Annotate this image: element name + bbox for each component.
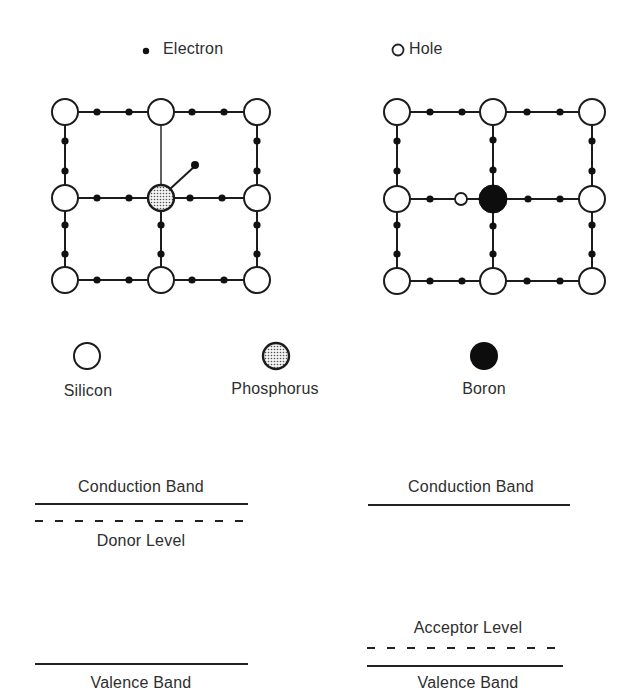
electron-legend-label: Electron xyxy=(163,40,223,58)
extra-electron-icon xyxy=(191,161,199,169)
hole-legend-icon xyxy=(393,45,404,56)
silicon-atom xyxy=(579,99,605,125)
silicon-atom xyxy=(480,99,506,125)
hole-icon xyxy=(455,193,467,205)
phosphorus-legend-icon xyxy=(263,343,289,369)
silicon-atom xyxy=(579,268,605,294)
n-type-lattice xyxy=(52,99,270,293)
silicon-atom xyxy=(244,267,270,293)
boron-legend-icon xyxy=(470,342,498,370)
silicon-atom xyxy=(244,99,270,125)
silicon-atom xyxy=(52,267,78,293)
silicon-atom xyxy=(148,99,174,125)
silicon-atom xyxy=(480,268,506,294)
left-conduction-band-label: Conduction Band xyxy=(78,478,204,496)
silicon-atom xyxy=(384,186,410,212)
silicon-legend-icon xyxy=(74,343,100,369)
p-type-lattice xyxy=(384,99,605,294)
boron-label: Boron xyxy=(462,380,506,398)
silicon-atom xyxy=(244,185,270,211)
silicon-atom xyxy=(52,185,78,211)
left-valence-band-label: Valence Band xyxy=(91,674,192,690)
electron-legend-icon xyxy=(143,48,149,54)
silicon-atom xyxy=(52,99,78,125)
donor-level-label: Donor Level xyxy=(97,532,185,550)
silicon-label: Silicon xyxy=(64,382,113,400)
right-conduction-band-label: Conduction Band xyxy=(408,478,534,496)
hole-legend-label: Hole xyxy=(409,40,443,58)
semiconductor-doping-diagram xyxy=(0,0,622,690)
phosphorus-label: Phosphorus xyxy=(231,380,318,398)
right-valence-band-label: Valence Band xyxy=(418,674,519,690)
acceptor-level-label: Acceptor Level xyxy=(414,619,523,637)
phosphorus-atom xyxy=(148,185,174,211)
silicon-atom xyxy=(148,267,174,293)
boron-atom xyxy=(479,185,507,213)
silicon-atom xyxy=(384,268,410,294)
silicon-atom xyxy=(579,186,605,212)
silicon-atom xyxy=(384,99,410,125)
